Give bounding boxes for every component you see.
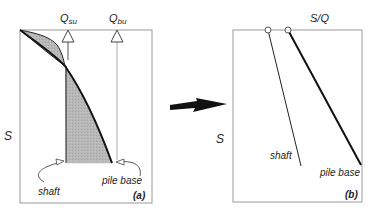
panel-a-s-axis-label: S [4,129,12,143]
transform-arrow-icon [170,98,227,112]
qsu-label: Qsu [60,12,78,26]
shaft-label: shaft [38,186,61,197]
qsu-arrow-head-icon [62,30,74,42]
qbu-label: Qbu [109,12,127,26]
panel-b-tag: (b) [345,189,358,200]
base-shaded-area [65,66,112,163]
panel-b: S/Q S shaft pile base (b) [216,12,362,202]
pile-load-settlement-diagram: Qsu Qbu S shaft pile base (a) S/Q S shaf… [0,0,374,215]
shaft-leader-arrow-icon [56,159,64,165]
shaft-origin-marker [265,27,271,33]
qbu-arrow-head-icon [111,30,123,42]
pile-base-line [288,30,361,165]
panel-b-s-axis-label: S [216,132,224,146]
shaft-line [268,30,301,166]
panel-a: Qsu Qbu S shaft pile base (a) [4,12,152,203]
sq-axis-label: S/Q [310,12,329,24]
base-origin-marker [285,27,291,33]
panel-b-pile-base-label: pile base [319,167,360,178]
shaft-leader-line [38,162,62,182]
pile-base-label: pile base [101,175,142,186]
panel-a-tag: (a) [133,190,146,201]
panel-b-shaft-label: shaft [270,150,293,161]
